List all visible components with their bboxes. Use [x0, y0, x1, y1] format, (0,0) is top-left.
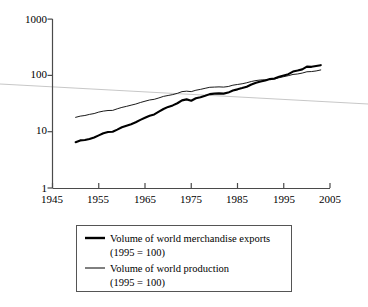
x-tick-label-1965: 1965	[134, 193, 157, 205]
x-tick-label-2005: 2005	[319, 193, 342, 205]
legend-label-production-line1: Volume of world production	[110, 263, 230, 274]
log-line-chart: 1 10 100 1000 1945 1955 1965 1975 1985 1…	[0, 0, 368, 307]
y-tick-label-1000: 1000	[25, 13, 48, 25]
x-tick-label-1975: 1975	[180, 193, 203, 205]
legend-label-production-line2: (1995 = 100)	[110, 277, 165, 289]
legend-label-exports-line1: Volume of world merchandise exports	[110, 233, 270, 244]
chart-figure: 1 10 100 1000 1945 1955 1965 1975 1985 1…	[0, 0, 368, 307]
legend-label-exports-line2: (1995 = 100)	[110, 247, 165, 259]
y-tick-label-100: 100	[31, 68, 48, 80]
x-tick-label-1985: 1985	[226, 193, 249, 205]
x-tick-label-1995: 1995	[273, 193, 296, 205]
y-tick-label-10: 10	[36, 124, 48, 136]
x-tick-label-1955: 1955	[87, 193, 110, 205]
chart-legend: Volume of world merchandise exports (199…	[77, 226, 292, 292]
x-tick-label-1945: 1945	[41, 193, 64, 205]
